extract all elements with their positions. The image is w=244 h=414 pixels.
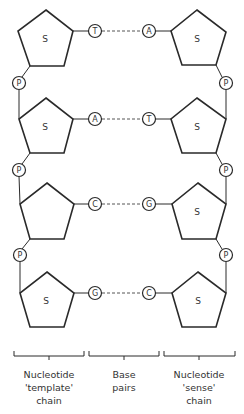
base-left-2: A <box>92 115 98 124</box>
sugar-right-4: S <box>195 296 201 306</box>
base-right-4: C <box>146 289 152 298</box>
base-left-3: C <box>92 200 98 209</box>
dna-diagram: T A A T C G G C P P P P P P S S S S S S … <box>0 0 244 414</box>
label-line: chain <box>159 394 239 407</box>
label-line: pairs <box>84 381 164 394</box>
sugar-left-1: S <box>42 34 48 44</box>
label-line: chain <box>9 394 89 407</box>
label-sense-chain: Nucleotide 'sense' chain <box>159 368 239 407</box>
label-line: Base <box>84 368 164 381</box>
bracket-basepairs <box>89 351 159 360</box>
label-base-pairs: Base pairs <box>84 368 164 394</box>
phosphate-right-3: P <box>224 251 229 260</box>
phosphate-left-3: P <box>18 251 23 260</box>
phosphate-left-2: P <box>17 166 22 175</box>
sugar-right-1: S <box>194 34 200 44</box>
sugar-right-2: S <box>194 122 200 132</box>
bracket-template <box>14 351 84 360</box>
left-sugar-3 <box>20 183 74 239</box>
sugar-right-3: S <box>194 207 200 217</box>
base-left-4: G <box>92 289 98 298</box>
label-line: 'template' <box>9 381 89 394</box>
phosphate-right-2: P <box>224 166 229 175</box>
base-right-3: G <box>146 200 152 209</box>
label-template-chain: Nucleotide 'template' chain <box>9 368 89 407</box>
base-right-2: T <box>146 115 152 124</box>
label-line: Nucleotide <box>9 368 89 381</box>
phosphate-left-1: P <box>17 79 22 88</box>
bracket-sense <box>164 351 235 360</box>
label-line: Nucleotide <box>159 368 239 381</box>
base-right-1: A <box>146 27 152 36</box>
phosphate-right-1: P <box>224 79 229 88</box>
sugar-left-2: S <box>42 122 48 132</box>
base-left-1: T <box>92 27 98 36</box>
sugar-left-4: S <box>43 296 49 306</box>
label-line: 'sense' <box>159 381 239 394</box>
